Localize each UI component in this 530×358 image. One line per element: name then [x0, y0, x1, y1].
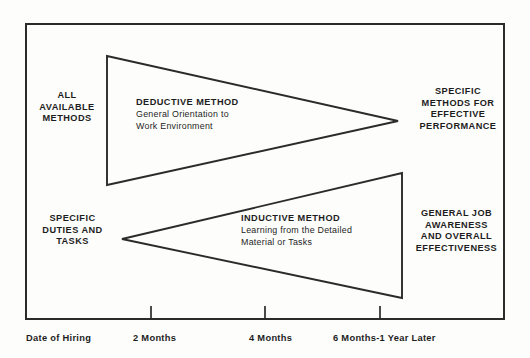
label-line: AND OVERALL	[404, 231, 509, 243]
deductive-method-body-line: Work Environment	[136, 121, 296, 132]
label-line: SPECIFIC	[409, 86, 507, 98]
diagram-page: ALL AVAILABLE METHODS DEDUCTIVE METHOD G…	[0, 0, 530, 358]
deductive-method-body-line: General Orientation to	[136, 109, 296, 120]
diagram-artwork	[0, 0, 530, 358]
label-line: AVAILABLE	[29, 102, 105, 114]
inductive-method-heading: INDUCTIVE METHOD	[241, 213, 416, 225]
label-line: METHODS	[29, 113, 105, 125]
label-line: DUTIES AND	[25, 225, 120, 237]
label-line: TASKS	[25, 236, 120, 248]
label-line: EFFECTIVE	[409, 109, 507, 121]
axis-label-date-of-hiring: Date of Hiring	[26, 333, 91, 343]
label-line: ALL	[29, 90, 105, 102]
deductive-method-heading: DEDUCTIVE METHOD	[136, 97, 296, 109]
label-inductive-method: INDUCTIVE METHOD Learning from the Detai…	[241, 213, 416, 248]
label-line: AWARENESS	[404, 220, 509, 232]
label-line: METHODS FOR	[409, 98, 507, 110]
label-line: EFFECTIVENESS	[404, 243, 509, 255]
label-line: PERFORMANCE	[409, 121, 507, 133]
label-line: GENERAL JOB	[404, 208, 509, 220]
inductive-method-body-line: Learning from the Detailed	[241, 225, 416, 236]
inductive-method-body-line: Material or Tasks	[241, 237, 416, 248]
axis-label-2-months: 2 Months	[133, 333, 176, 343]
label-specific-methods-for-effective-performance: SPECIFIC METHODS FOR EFFECTIVE PERFORMAN…	[409, 86, 507, 132]
label-deductive-method: DEDUCTIVE METHOD General Orientation to …	[136, 97, 296, 132]
label-general-job-awareness: GENERAL JOB AWARENESS AND OVERALL EFFECT…	[404, 208, 509, 254]
label-specific-duties-and-tasks: SPECIFIC DUTIES AND TASKS	[25, 213, 120, 248]
label-all-available-methods: ALL AVAILABLE METHODS	[29, 90, 105, 125]
label-line: SPECIFIC	[25, 213, 120, 225]
axis-label-6-months-1-year-later: 6 Months-1 Year Later	[333, 333, 436, 343]
axis-label-4-months: 4 Months	[249, 333, 292, 343]
